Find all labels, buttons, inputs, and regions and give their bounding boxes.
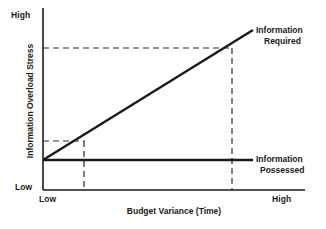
x-tick-label-high: High xyxy=(272,194,291,204)
x-tick-label-low: Low xyxy=(39,194,56,204)
y-tick-label-low: Low xyxy=(15,182,32,192)
y-axis-title: Information Overload Stress xyxy=(25,26,35,176)
series-line-information-required xyxy=(43,30,253,160)
series-label-information-required: Information Required xyxy=(256,25,303,47)
chart-figure: Information Overload Stress Budget Varia… xyxy=(0,0,326,229)
series-label-information-required-line1: Information xyxy=(256,25,303,35)
series-label-information-possessed-line2: Possessed xyxy=(256,165,304,176)
series-label-information-possessed: Information Possessed xyxy=(256,154,304,176)
x-axis-title: Budget Variance (Time) xyxy=(43,206,305,216)
y-tick-label-high: High xyxy=(11,10,30,20)
series-label-information-possessed-line1: Information xyxy=(256,154,303,164)
series-label-information-required-line2: Required xyxy=(256,36,303,47)
